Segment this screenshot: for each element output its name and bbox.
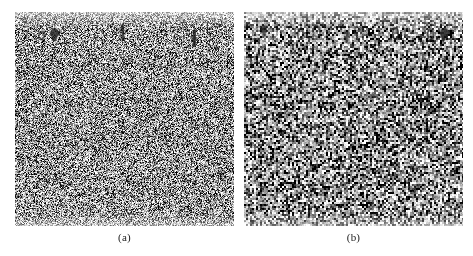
figure-panel-b: (b)	[244, 12, 463, 256]
panel-a-noise-canvas	[15, 12, 234, 226]
panel-a-image	[15, 12, 234, 226]
figure-root: (a) (b)	[0, 0, 473, 256]
panel-a-caption: (a)	[15, 230, 234, 244]
panel-b-caption: (b)	[244, 230, 463, 244]
panel-b-image	[244, 12, 463, 226]
figure-panel-a: (a)	[15, 12, 234, 256]
panel-b-noise-canvas	[244, 12, 463, 226]
